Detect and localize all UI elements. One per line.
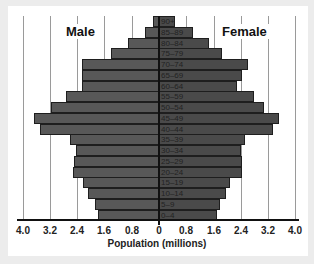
male-bar [76,145,160,156]
age-group-label: 25–29 [161,157,183,167]
male-bar [95,199,160,210]
male-bar [111,48,160,59]
x-tick-label: 2.4 [226,225,256,236]
age-group-label: 15–19 [161,178,183,188]
male-bar [88,188,160,199]
x-axis-title: Population (millions) [0,238,314,249]
x-tick-label: 0 [144,225,174,236]
age-group-label: 45–49 [161,114,183,124]
age-group-label: 70–74 [161,60,183,70]
population-pyramid-chart: MaleFemale90+85–8980–8475–7970–7465–6960… [0,0,314,264]
male-bar [51,102,160,113]
age-group-label: 30–34 [161,146,183,156]
age-group-label: 35–39 [161,135,183,145]
age-group-label: 90+ [161,17,175,27]
x-tick-label: 1.6 [89,225,119,236]
x-tick-label: 4.0 [8,225,38,236]
x-tick-label: 0.8 [117,225,147,236]
male-bar [70,134,160,145]
gridline [23,16,24,220]
age-group-label: 55–59 [161,92,183,102]
x-tick-label: 2.4 [62,225,92,236]
male-bar [82,59,160,70]
x-tick-label: 4.0 [280,225,310,236]
male-bar [82,70,160,81]
age-group-label: 65–69 [161,71,183,81]
male-bar [74,156,160,167]
gridline [295,16,296,220]
male-bar [83,177,160,188]
age-group-label: 5–9 [161,200,174,210]
male-label: Male [64,24,97,39]
center-axis [158,16,160,220]
x-tick-label: 0.8 [171,225,201,236]
age-group-label: 10–14 [161,189,183,199]
x-tick-label: 3.2 [35,225,65,236]
age-group-label: 50–54 [161,103,183,113]
age-group-label: 75–79 [161,49,183,59]
male-bar [66,91,160,102]
male-bar [34,113,160,124]
age-group-label: 85–89 [161,28,183,38]
x-tick-label: 3.2 [253,225,283,236]
x-tick-label: 1.6 [199,225,229,236]
female-label: Female [220,24,269,39]
